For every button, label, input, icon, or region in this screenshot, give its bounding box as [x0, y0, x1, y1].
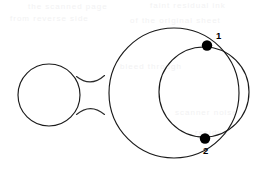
node-label-1: 1 — [216, 30, 222, 41]
neck-bottom-arc — [77, 109, 105, 115]
node-label-2: 2 — [203, 145, 208, 156]
neck-top-arc — [77, 76, 105, 83]
figure-diagram: 1 2 — [0, 0, 270, 172]
small-circle — [18, 64, 80, 126]
node-dot-1[interactable] — [202, 40, 212, 50]
figure-container: the scanned page faint residual ink from… — [0, 0, 270, 172]
node-dot-2[interactable] — [200, 133, 210, 143]
large-circle — [109, 28, 239, 158]
right-circle — [159, 47, 249, 137]
